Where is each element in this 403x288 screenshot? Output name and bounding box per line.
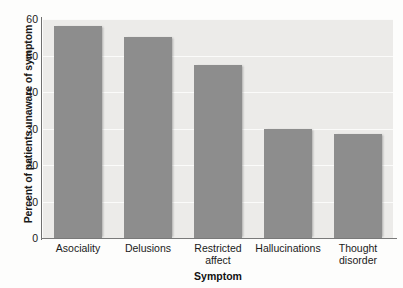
y-tick-label: 10 [14,196,38,207]
x-tick-label-line: Hallucinations [253,243,323,255]
y-tick-label: 60 [14,14,38,25]
y-axis-tick-labels: 0102030405060 [14,0,38,288]
bar [264,129,312,239]
bar [194,65,242,238]
y-tick-label: 50 [14,50,38,61]
x-tick-label: Asociality [43,243,113,255]
x-tick-label-line: Thought [323,243,393,255]
x-axis-line [41,238,397,239]
y-tick-label: 40 [14,87,38,98]
y-tick-label: 30 [14,123,38,134]
x-tick-label-line: Asociality [43,243,113,255]
bar [124,37,172,238]
x-tick-label-line: affect [183,255,253,267]
bars-layer [43,19,393,238]
bar [334,134,382,238]
y-tick-label: 0 [14,233,38,244]
x-tick-label-line: disorder [323,255,393,267]
y-tick-label: 20 [14,160,38,171]
bar [54,26,102,238]
x-tick-label: Delusions [113,243,183,255]
bar-chart-figure: Percent of patients unaware of symptom 0… [0,0,403,288]
x-tick-label: Thoughtdisorder [323,243,393,266]
x-tick-label: Hallucinations [253,243,323,255]
x-tick-label-line: Delusions [113,243,183,255]
x-tick-label: Restrictedaffect [183,243,253,266]
x-axis-title: Symptom [43,270,393,282]
x-tick-label-line: Restricted [183,243,253,255]
